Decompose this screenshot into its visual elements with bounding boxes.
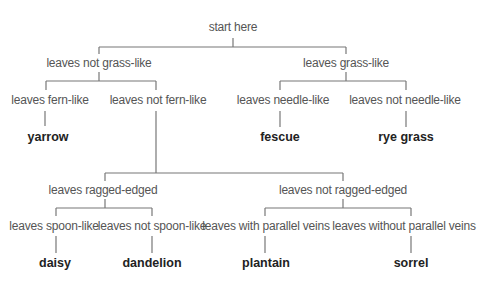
node-leaves-not-spoon-like: leaves not spoon-like	[98, 219, 207, 233]
node-leaves-not-ragged-edged: leaves not ragged-edged	[279, 183, 407, 197]
leaf-dandelion: dandelion	[122, 256, 181, 270]
node-leaves-fern-like: leaves fern-like	[11, 93, 89, 107]
leaf-daisy: daisy	[39, 256, 71, 270]
leaf-sorrel: sorrel	[394, 256, 429, 270]
node-leaves-grass-like: leaves grass-like	[303, 56, 389, 70]
node-start-here: start here	[209, 20, 258, 34]
leaf-yarrow: yarrow	[28, 130, 69, 144]
leaf-plantain: plantain	[242, 256, 290, 270]
node-leaves-not-fern-like: leaves not fern-like	[110, 93, 207, 107]
node-leaves-spoon-like: leaves spoon-like	[9, 219, 98, 233]
node-leaves-not-needle-like: leaves not needle-like	[349, 93, 461, 107]
node-leaves-without-parallel-veins: leaves without parallel veins	[332, 219, 476, 233]
node-leaves-with-parallel-veins: leaves with parallel veins	[202, 219, 330, 233]
node-leaves-not-grass-like: leaves not grass-like	[46, 56, 151, 70]
leaf-rye-grass: rye grass	[378, 130, 434, 144]
leaf-fescue: fescue	[260, 130, 300, 144]
node-leaves-ragged-edged: leaves ragged-edged	[49, 183, 158, 197]
node-leaves-needle-like: leaves needle-like	[237, 93, 329, 107]
